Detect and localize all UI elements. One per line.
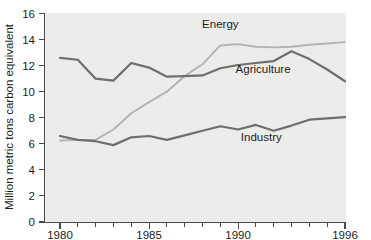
series-label-agriculture: Agriculture [236,63,291,75]
plot-area-background [44,13,346,222]
y-tick-label-6: 6 [29,138,35,150]
series-label-industry: Industry [241,131,282,143]
y-tick-label-16: 16 [22,8,35,20]
x-tick-label-1996: 1996 [332,229,358,240]
y-tick-label-0: 0 [29,216,35,228]
line-chart: 0246810121416 1980198519901996 EnergyAgr… [0,0,371,240]
chart-container: 0246810121416 1980198519901996 EnergyAgr… [0,0,371,240]
y-axis-title: Million metric tons carbon equivalent [3,23,15,210]
x-tick-label-1985: 1985 [136,229,162,240]
x-tick-label-1990: 1990 [225,229,251,240]
y-tick-label-4: 4 [29,164,36,176]
y-tick-label-10: 10 [22,86,35,98]
y-tick-label-2: 2 [29,190,35,202]
y-tick-label-12: 12 [22,60,35,72]
y-tick-label-14: 14 [22,34,35,46]
x-tick-label-1980: 1980 [47,229,73,240]
series-label-energy: Energy [202,18,239,30]
y-tick-label-8: 8 [29,112,35,124]
